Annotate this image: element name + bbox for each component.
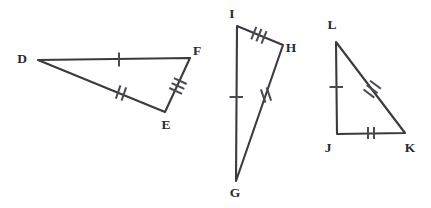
vertex-label-g: G <box>230 185 241 200</box>
side-ih-ticks <box>251 27 266 44</box>
triangles-diagram: D F E I H G <box>0 0 431 208</box>
vertex-label-i: I <box>229 6 234 21</box>
vertex-label-j: J <box>325 140 332 155</box>
side-fe-ticks <box>169 78 186 94</box>
vertex-label-e: E <box>161 117 170 132</box>
triangle-ghi: I H G <box>229 6 296 200</box>
vertex-label-l: L <box>327 17 336 32</box>
vertex-label-f: F <box>193 43 201 58</box>
vertex-label-h: H <box>286 40 297 55</box>
geometry-figure-canvas: D F E I H G <box>0 0 431 208</box>
vertex-label-k: K <box>405 140 416 155</box>
triangle-def: D F E <box>17 43 201 132</box>
triangle-def-outline <box>38 58 190 112</box>
triangle-ghi-outline <box>236 26 283 181</box>
triangle-jkl: L J K <box>325 17 416 155</box>
vertex-label-d: D <box>17 51 27 66</box>
